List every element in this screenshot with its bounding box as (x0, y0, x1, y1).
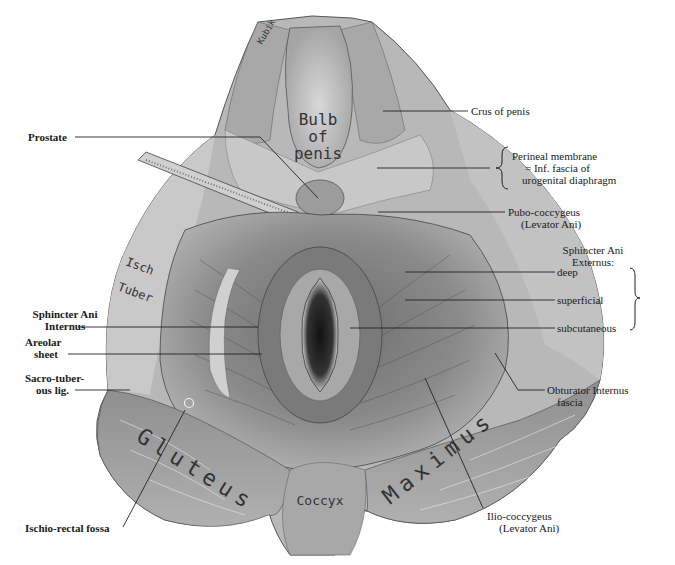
label-pubo-coccygeus: Pubo-coccygeus (Levator Ani) (508, 206, 581, 230)
perineum-illustration: Bulb of penis Isch Tuber Gluteus Maximus… (0, 0, 675, 565)
label-crus-of-penis: Crus of penis (471, 105, 530, 117)
svg-text:penis: penis (294, 144, 342, 163)
label-ilio-coccygeus: Ilio-coccygeus (Levator Ani) (487, 510, 559, 534)
label-superficial: superficial (557, 294, 603, 306)
label-areolar-sheet: Areolar sheet (25, 336, 61, 360)
label-perineal-membrane: Perineal membrane = Inf. fascia of uroge… (512, 150, 616, 186)
label-sphincter-ani-internus: Sphincter Ani Internus (25, 308, 105, 332)
label-deep: deep (557, 266, 578, 278)
svg-text:Coccyx: Coccyx (297, 493, 344, 508)
label-prostate: Prostate (28, 131, 67, 143)
sphincter-externus-brace (630, 268, 640, 330)
label-sphincter-ani-externus: Sphincter Ani Externus: (543, 244, 643, 268)
label-obturator-internus-fascia: Obturator Internus fascia (547, 384, 629, 408)
label-subcutaneous: subcutaneous (557, 322, 616, 334)
label-sacro-tuberous-ligament: Sacro-tuber- ous lig. (25, 372, 84, 396)
label-ischio-rectal-fossa: Ischio-rectal fossa (25, 522, 109, 534)
